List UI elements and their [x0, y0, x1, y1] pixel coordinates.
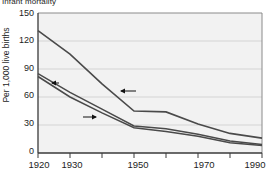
plot-background: [38, 13, 262, 153]
infant-mortality-chart: Infant mortality Per 1,000 live births 1…: [0, 0, 271, 174]
x-axis-tickmarks: [38, 153, 262, 158]
chart-canvas: [0, 0, 271, 174]
